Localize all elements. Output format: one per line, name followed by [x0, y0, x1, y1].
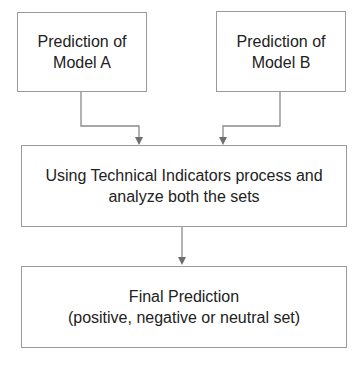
node-label-line: Model B: [237, 52, 326, 73]
edge-model-b-to-process: [223, 92, 280, 138]
node-label-line: Prediction of: [38, 31, 127, 52]
arrowhead-icon: [219, 137, 227, 145]
node-label-line: analyze both the sets: [45, 186, 322, 207]
node-label-line: Model A: [38, 52, 127, 73]
node-technical-indicators-process: Using Technical Indicators process and a…: [21, 145, 347, 227]
node-label-line: Using Technical Indicators process and: [45, 165, 322, 186]
edge-model-a-to-process: [81, 92, 139, 138]
node-label-line: Final Prediction: [68, 286, 300, 307]
node-label-line: (positive, negative or neutral set): [68, 307, 300, 328]
node-label-line: Prediction of: [237, 31, 326, 52]
arrowhead-icon: [135, 137, 143, 145]
arrowhead-icon: [178, 257, 186, 265]
node-final-prediction: Final Prediction (positive, negative or …: [21, 266, 347, 348]
node-prediction-model-a: Prediction of Model A: [17, 12, 147, 92]
node-prediction-model-b: Prediction of Model B: [216, 11, 346, 92]
